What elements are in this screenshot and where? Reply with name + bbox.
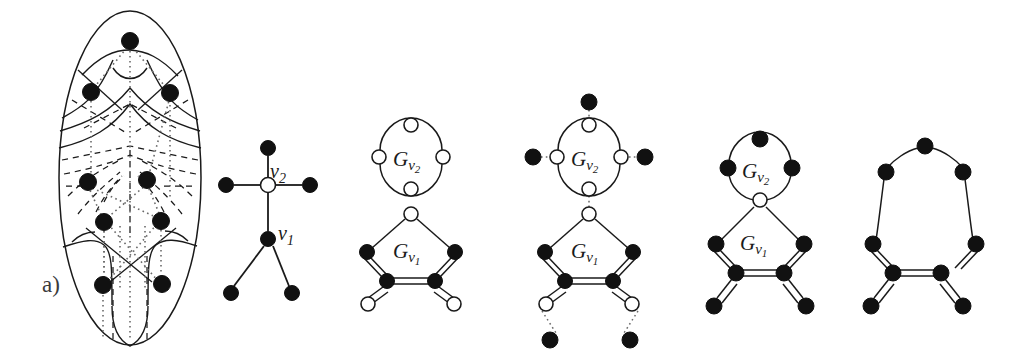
vertex — [154, 276, 171, 293]
tree-leaf — [219, 178, 234, 193]
panel-label-a: a) — [42, 272, 60, 297]
gnu2-node — [752, 131, 768, 147]
gnu1-node — [538, 245, 553, 260]
final-node — [955, 298, 971, 314]
gnu1-node — [582, 207, 596, 221]
final-node — [865, 236, 881, 252]
tree-leaf — [303, 178, 318, 193]
outer-black-vertex — [637, 149, 653, 165]
vertex — [153, 213, 170, 230]
figure-root: a) ν2 ν1 Gν2 — [0, 0, 1010, 359]
tree-node-nu1 — [261, 232, 276, 247]
vertex — [83, 84, 100, 101]
vertex — [95, 277, 112, 294]
gnu1-node — [361, 297, 375, 311]
gnu1-node — [776, 265, 792, 281]
gnu1-node — [625, 297, 639, 311]
gnu1-node — [798, 298, 814, 314]
vertex — [96, 214, 113, 231]
gnu1-node — [404, 207, 418, 221]
gnu1-node — [796, 236, 812, 252]
vertex — [139, 172, 156, 189]
tree-leaf — [224, 286, 239, 301]
gnu2-node — [582, 118, 596, 132]
final-node — [968, 236, 984, 252]
gnu1-node — [428, 274, 443, 289]
gnu1-node — [558, 274, 573, 289]
vertex — [122, 33, 139, 50]
gnu2-node — [550, 150, 564, 164]
merge-node — [753, 193, 767, 207]
gnu1-node — [448, 245, 463, 260]
gnu1-node — [606, 274, 621, 289]
gnu1-node — [360, 245, 375, 260]
final-node — [917, 138, 933, 154]
gnu2-node — [372, 150, 386, 164]
gnu2-node — [436, 150, 450, 164]
tree-leaf — [261, 141, 276, 156]
final-node — [933, 265, 949, 281]
gnu1-node — [728, 265, 744, 281]
gnu1-node — [708, 236, 724, 252]
gnu1-node — [380, 274, 395, 289]
gnu1-node — [626, 245, 641, 260]
gnu2-node — [404, 182, 418, 196]
final-node — [955, 164, 971, 180]
gnu2-node — [720, 160, 736, 176]
gnu2-node — [404, 118, 418, 132]
vertex — [162, 85, 179, 102]
gnu1-node — [447, 297, 461, 311]
gnu1-node — [706, 298, 722, 314]
final-node — [863, 298, 879, 314]
gnu1-node — [539, 297, 553, 311]
gnu2-node — [614, 150, 628, 164]
final-node — [885, 265, 901, 281]
gnu2-node — [582, 182, 596, 196]
outer-black-vertex — [622, 332, 638, 348]
tree-leaf — [285, 286, 300, 301]
outer-black-vertex — [525, 149, 541, 165]
gnu2-node — [784, 160, 800, 176]
vertex — [80, 174, 97, 191]
outer-black-vertex — [581, 94, 597, 110]
final-node — [878, 164, 894, 180]
outer-black-vertex — [542, 332, 558, 348]
